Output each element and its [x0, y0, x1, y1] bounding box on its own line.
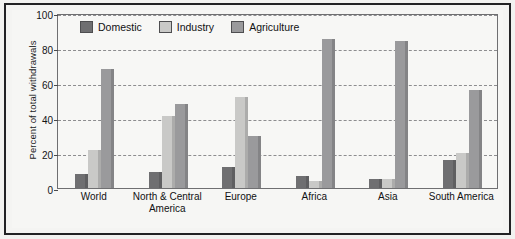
category-label: Europe — [204, 191, 278, 203]
legend-label: Industry — [177, 21, 214, 33]
bar — [88, 150, 101, 189]
bar — [296, 176, 309, 188]
bar-groups — [58, 15, 497, 188]
bar — [382, 179, 395, 188]
category-label: Africa — [278, 191, 352, 203]
category-label-line: America — [131, 203, 205, 215]
legend-item: Industry — [159, 21, 214, 33]
bar-group — [132, 15, 206, 188]
legend-label: Domestic — [98, 21, 142, 33]
y-axis-title: Percent of total withdrawals — [26, 14, 40, 186]
bar — [149, 172, 162, 188]
bar — [175, 104, 188, 188]
y-tick-label: 80 — [42, 45, 53, 56]
bar-shadow — [405, 41, 408, 188]
bar — [469, 90, 482, 188]
bar — [101, 69, 114, 188]
category-label: South America — [425, 191, 499, 203]
legend-item: Agriculture — [231, 21, 299, 33]
category-axis-labels: WorldNorth & CentralAmericaEuropeAfricaA… — [57, 191, 498, 225]
bar-shadow — [111, 69, 114, 188]
y-tick-label: 60 — [42, 80, 53, 91]
category-label-line: Africa — [278, 191, 352, 203]
legend-swatch-icon — [231, 21, 244, 33]
bar — [162, 116, 175, 188]
category-label-line: North & Central — [131, 191, 205, 203]
bar-shadow — [479, 90, 482, 188]
chart-legend: DomesticIndustryAgriculture — [80, 21, 299, 33]
bar — [395, 41, 408, 188]
bar — [369, 179, 382, 188]
category-label-line: South America — [425, 191, 499, 203]
bar — [248, 136, 261, 189]
bar — [443, 160, 456, 188]
bar-group — [352, 15, 426, 188]
category-label: North & CentralAmerica — [131, 191, 205, 215]
legend-label: Agriculture — [249, 21, 299, 33]
bar-shadow — [258, 136, 261, 189]
plot-area: 020406080100 DomesticIndustryAgriculture — [57, 14, 498, 189]
category-label: Asia — [351, 191, 425, 203]
legend-swatch-icon — [80, 21, 93, 33]
category-label-line: Europe — [204, 191, 278, 203]
bar-group — [58, 15, 132, 188]
category-label-line: World — [57, 191, 131, 203]
y-tick-label: 100 — [36, 10, 53, 21]
bar — [322, 39, 335, 188]
bar-group — [279, 15, 353, 188]
bar — [456, 153, 469, 188]
bar-shadow — [185, 104, 188, 188]
bar-group — [205, 15, 279, 188]
chart-figure: Percent of total withdrawals 02040608010… — [0, 0, 515, 239]
bar — [75, 174, 88, 188]
y-tick-label: 0 — [47, 185, 53, 196]
category-label: World — [57, 191, 131, 203]
bar-shadow — [332, 39, 335, 188]
y-tick-label: 20 — [42, 150, 53, 161]
y-tick-label: 40 — [42, 115, 53, 126]
category-label-line: Asia — [351, 191, 425, 203]
bar — [235, 97, 248, 188]
bar — [309, 181, 322, 188]
legend-swatch-icon — [159, 21, 172, 33]
legend-item: Domestic — [80, 21, 142, 33]
bar-group — [426, 15, 500, 188]
bar — [222, 167, 235, 188]
